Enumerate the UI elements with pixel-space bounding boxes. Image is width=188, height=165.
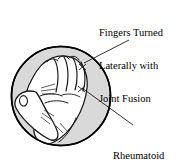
callout-fingers-line-3: Joint Fusion bbox=[99, 93, 163, 104]
callout-label-rheumatoid-nodules: Rheumatoid Nodules bbox=[113, 128, 164, 165]
callout-label-fingers-turned: Fingers Turned Laterally with Joint Fusi… bbox=[99, 5, 163, 126]
callout-fingers-line-1: Fingers Turned bbox=[99, 27, 163, 38]
callout-nodules-line-1: Rheumatoid bbox=[113, 150, 164, 161]
thumbnail-shape bbox=[20, 96, 28, 106]
callout-fingers-line-2: Laterally with bbox=[99, 60, 163, 71]
rheumatoid-arthritis-figure: Fingers Turned Laterally with Joint Fusi… bbox=[0, 0, 188, 165]
